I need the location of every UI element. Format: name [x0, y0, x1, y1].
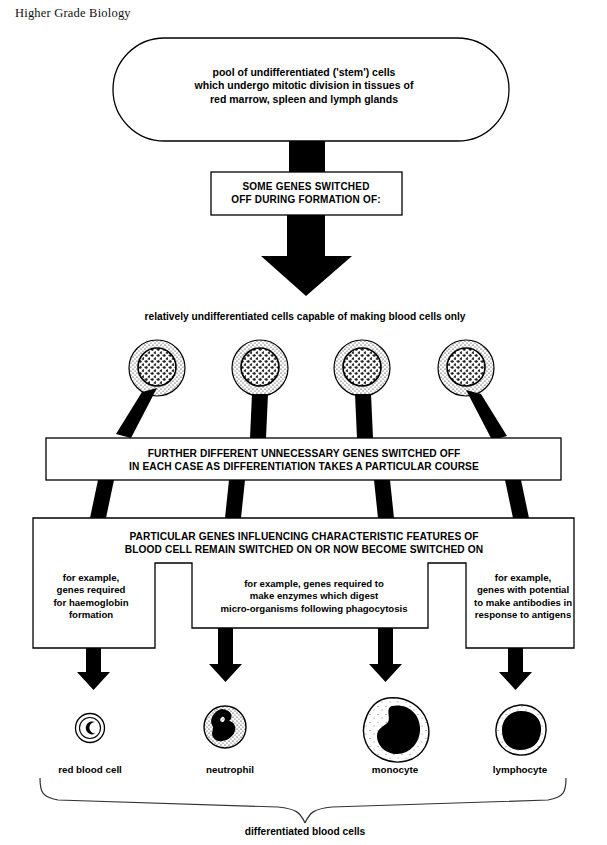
stem-cell-1 — [129, 340, 185, 396]
example-1-line2: genes required — [36, 584, 146, 596]
relatively-undifferentiated-label: relatively undifferentiated cells capabl… — [100, 310, 510, 323]
particular-genes-line1: PARTICULAR GENES INFLUENCING CHARACTERIS… — [60, 530, 548, 543]
stem-to-further-connectors — [116, 388, 507, 440]
differentiated-blood-cells-caption: differentiated blood cells — [180, 825, 430, 838]
monocyte-illustration — [364, 698, 429, 762]
further-genes-line1: FURTHER DIFFERENT UNNECESSARY GENES SWIT… — [55, 447, 553, 460]
blood-cell-label-lymphocyte: lymphocyte — [460, 764, 580, 777]
summary-brace — [40, 778, 566, 823]
diagram-page: Higher Grade Biology — [0, 0, 607, 845]
example-3-line3: to make antibodies in — [460, 597, 586, 609]
stem-cell-2 — [232, 340, 288, 396]
stem-pool-text: pool of undifferentiated ('stem') cells … — [118, 66, 490, 106]
example-3-line2: genes with potential — [460, 584, 586, 596]
stem-cell-group — [129, 340, 494, 396]
example-2-line1: for example, genes required to — [200, 578, 428, 590]
neutrophil-illustration — [204, 706, 246, 748]
stem-pool-line1: pool of undifferentiated ('stem') cells — [118, 66, 490, 79]
diagram-canvas — [0, 0, 607, 845]
particular-genes-line2: BLOOD CELL REMAIN SWITCHED ON OR NOW BEC… — [60, 543, 548, 556]
big-down-arrow — [261, 215, 352, 296]
particular-genes-text: PARTICULAR GENES INFLUENCING CHARACTERIS… — [60, 530, 548, 556]
stem-cell-3 — [334, 340, 390, 396]
blood-cell-label-neutrophil: neutrophil — [170, 764, 290, 777]
further-genes-line2: IN EACH CASE AS DIFFERENTIATION TAKES A … — [55, 460, 553, 473]
lymphocyte-illustration — [496, 705, 546, 755]
example-1-line3: for haemoglobin — [36, 597, 146, 609]
example-2-line2: make enzymes which digest — [200, 590, 428, 602]
blood-cell-label-monocyte: monocyte — [335, 764, 455, 777]
some-genes-line1: SOME GENES SWITCHED — [213, 181, 399, 194]
some-genes-text: SOME GENES SWITCHED OFF DURING FORMATION… — [213, 181, 399, 207]
example-1-line4: formation — [36, 609, 146, 621]
red-blood-cell-illustration — [76, 714, 105, 743]
further-genes-text: FURTHER DIFFERENT UNNECESSARY GENES SWIT… — [55, 447, 553, 473]
example-1-line1: for example, — [36, 572, 146, 584]
example-3-line1: for example, — [460, 572, 586, 584]
example-3-line4: response to antigens — [460, 609, 586, 621]
further-to-particular-connectors — [90, 480, 529, 518]
example-enzymes-text: for example, genes required to make enzy… — [200, 578, 428, 615]
stem-pool-line3: red marrow, spleen and lymph glands — [118, 93, 490, 106]
some-genes-line2: OFF DURING FORMATION OF: — [213, 194, 399, 207]
example-2-line3: micro-organisms following phagocytosis — [200, 603, 428, 615]
blood-cell-label-red-blood-cell: red blood cell — [30, 764, 150, 777]
example-antibodies-text: for example, genes with potential to mak… — [460, 572, 586, 621]
stem-cell-4 — [438, 340, 494, 396]
example-haemoglobin-text: for example, genes required for haemoglo… — [36, 572, 146, 621]
stem-pool-line2: which undergo mitotic division in tissue… — [118, 79, 490, 92]
